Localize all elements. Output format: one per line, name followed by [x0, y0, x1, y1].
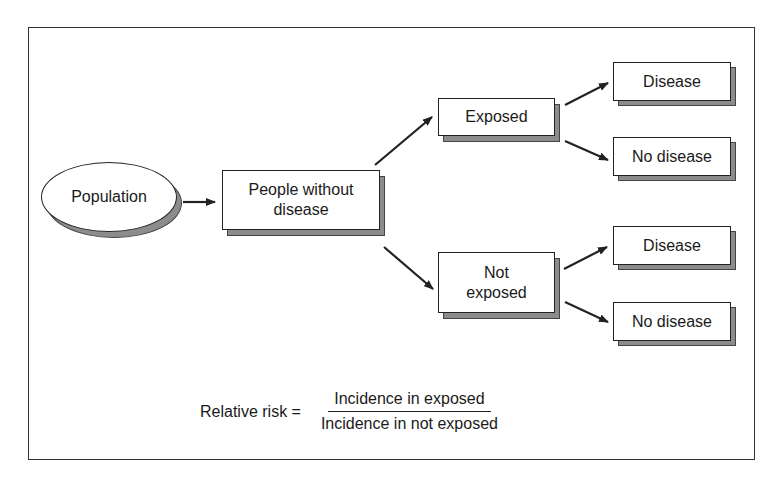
arrows-layer	[0, 0, 781, 491]
arrow-exposed-to-no-disease	[565, 141, 608, 160]
arrow-people-to-exposed	[375, 117, 432, 165]
arrow-not-exposed-to-disease	[564, 247, 607, 269]
arrow-exposed-to-disease	[565, 83, 608, 105]
arrow-not-exposed-to-no-disease	[565, 302, 608, 322]
arrow-people-to-not-exposed	[384, 247, 433, 289]
